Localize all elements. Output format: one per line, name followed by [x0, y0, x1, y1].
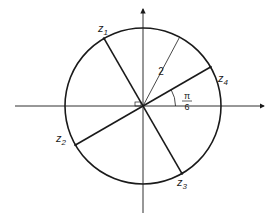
complex-plane-diagram: π 6 2 z1 z2 z3 z4 [0, 0, 271, 221]
angle-label-denominator: 6 [184, 102, 189, 112]
point-z1 [103, 37, 106, 40]
point-z3 [181, 172, 184, 175]
point-label-z3: z3 [176, 176, 188, 191]
angle-label-numerator: π [184, 91, 190, 101]
point-z4 [209, 66, 212, 69]
point-label-z1: z1 [97, 22, 108, 37]
right-angle-marker [135, 102, 141, 106]
point-label-z2: z2 [55, 132, 67, 147]
angle-arc [171, 90, 175, 106]
point-z2 [74, 144, 77, 147]
radius-label: 2 [158, 66, 164, 77]
